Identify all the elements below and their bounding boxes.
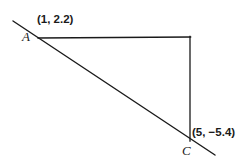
point-a-coordinate-label: (1, 2.2) [37, 13, 73, 25]
vertex-label-c: C [182, 143, 191, 159]
point-c-coordinate-label: (5, −5.4) [192, 126, 235, 138]
geometry-figure [0, 0, 251, 168]
figure-background [0, 0, 251, 168]
vertex-label-a: A [22, 29, 30, 45]
